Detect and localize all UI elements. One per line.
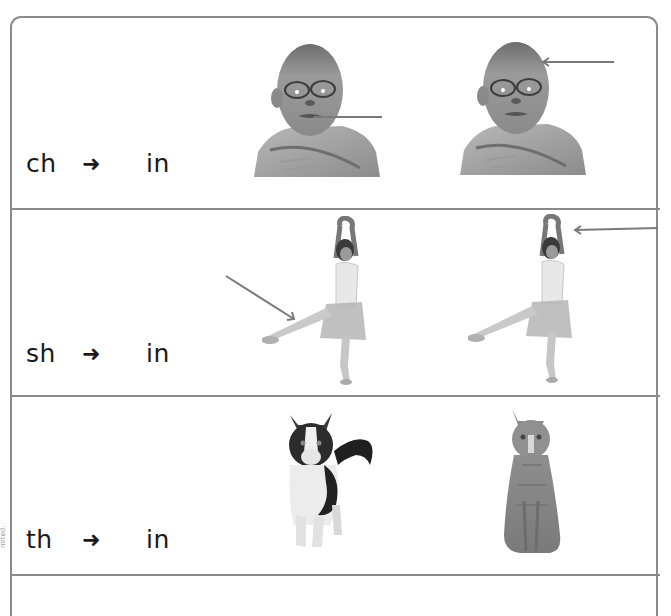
sound-label: th — [26, 527, 53, 552]
word-row-sh: sh ➜ in — [12, 210, 658, 395]
target-word-label: in — [146, 527, 170, 552]
sound-label: sh — [26, 341, 56, 366]
right-arrow-icon: ➜ — [82, 153, 101, 175]
copyright-note: mited. — [0, 526, 7, 548]
sound-label: ch — [26, 151, 57, 176]
pointer-line — [312, 113, 384, 123]
row-divider — [10, 574, 660, 576]
tabby-cat-image — [498, 405, 570, 555]
left-arrow-icon — [572, 224, 660, 236]
calico-cat-image — [284, 405, 374, 555]
boy-face-image — [250, 40, 382, 178]
target-word-label: in — [146, 341, 170, 366]
right-arrow-icon: ➜ — [82, 529, 101, 551]
target-word-label: in — [146, 151, 170, 176]
ballet-dancer-image — [468, 214, 583, 384]
word-row-ch: ch ➜ in — [12, 18, 658, 208]
word-row-th: th ➜ in — [12, 397, 658, 574]
right-arrow-icon: ➜ — [82, 343, 101, 365]
diagonal-arrow-icon — [224, 274, 298, 324]
left-arrow-icon — [540, 56, 616, 68]
